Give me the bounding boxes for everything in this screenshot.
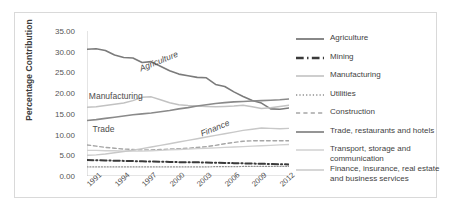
legend-swatch-icon — [295, 145, 325, 155]
legend-label: Manufacturing — [330, 70, 381, 80]
legend-swatch-icon — [295, 127, 325, 137]
legend-swatch-icon — [295, 34, 325, 44]
plot-area: AgricultureManufacturingTradeFinance — [87, 31, 289, 176]
legend-label: Finance, insurance, real estate and busi… — [330, 164, 447, 183]
y-tick-label: 25.00 — [55, 68, 75, 77]
y-tick-label: 15.00 — [55, 109, 75, 118]
y-tick-label: 0.00 — [59, 172, 75, 181]
chart-legend: AgricultureMiningManufacturingUtilitiesC… — [295, 33, 447, 191]
series-line — [87, 160, 289, 164]
legend-item[interactable]: Trade, restaurants and hotels — [295, 126, 447, 137]
legend-item[interactable]: Utilities — [295, 89, 447, 100]
x-axis-tick-labels: 19911994199720002003200620092012 — [87, 180, 297, 215]
legend-item[interactable]: Mining — [295, 52, 447, 63]
y-tick-label: 35.00 — [55, 27, 75, 36]
y-tick-label: 30.00 — [55, 47, 75, 56]
legend-label: Utilities — [330, 89, 356, 99]
legend-item[interactable]: Transport, storage and communication — [295, 144, 447, 163]
y-tick-label: 10.00 — [55, 130, 75, 139]
legend-swatch-icon — [295, 165, 325, 175]
legend-swatch-icon — [295, 108, 325, 118]
chart-frame: Percentage Contribution 0.005.0010.0015.… — [14, 12, 437, 198]
legend-label: Trade, restaurants and hotels — [330, 126, 434, 136]
series-line — [87, 145, 289, 152]
legend-swatch-icon — [295, 53, 325, 63]
legend-item[interactable]: Construction — [295, 107, 447, 118]
legend-label: Transport, storage and communication — [330, 144, 447, 163]
legend-label: Agriculture — [330, 33, 368, 43]
legend-item[interactable]: Manufacturing — [295, 70, 447, 81]
chart-screenshot: Percentage Contribution 0.005.0010.0015.… — [0, 0, 450, 215]
y-tick-label: 5.00 — [59, 151, 75, 160]
legend-swatch-icon — [295, 71, 325, 81]
legend-label: Mining — [330, 52, 354, 62]
legend-label: Construction — [330, 107, 375, 117]
legend-item[interactable]: Finance, insurance, real estate and busi… — [295, 164, 447, 183]
legend-swatch-icon — [295, 90, 325, 100]
y-axis-tick-labels: 0.005.0010.0015.0020.0025.0030.0035.00 — [27, 13, 75, 199]
legend-item[interactable]: Agriculture — [295, 33, 447, 44]
series-lines — [87, 31, 289, 176]
y-tick-label: 20.00 — [55, 89, 75, 98]
